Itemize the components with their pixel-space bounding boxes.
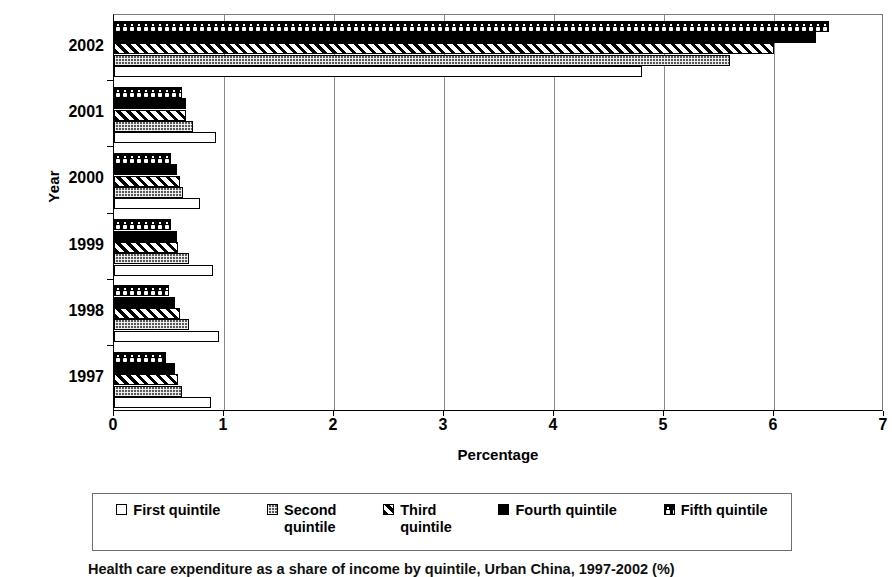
bar-group-2001: [114, 81, 882, 147]
x-tick-label-7: 7: [863, 416, 892, 434]
bar-1997-fifth-quintile: [114, 352, 166, 363]
bar-1999-third-quintile: [114, 242, 178, 253]
second-quintile-swatch: [267, 504, 278, 515]
bar-1998-fourth-quintile: [114, 297, 175, 308]
x-tick-label-0: 0: [93, 416, 133, 434]
bar-1998-second-quintile: [114, 319, 189, 330]
bar-2000-fourth-quintile: [114, 164, 177, 175]
bar-group-2002: [114, 15, 882, 81]
bar-group-1998: [114, 280, 882, 346]
x-tick-label-2: 2: [313, 416, 353, 434]
bar-2000-fifth-quintile: [114, 153, 171, 164]
legend-label-2: Second quintile: [284, 502, 336, 536]
bar-1998-first-quintile: [114, 331, 219, 342]
legend-item-5[interactable]: Fifth quintile: [664, 502, 768, 519]
legend-item-1[interactable]: First quintile: [116, 502, 220, 519]
y-tick-label-2002: 2002: [44, 37, 104, 55]
bar-1998-fifth-quintile: [114, 285, 169, 296]
y-tick-label-1999: 1999: [44, 236, 104, 254]
x-tick-label-4: 4: [533, 416, 573, 434]
bar-2000-second-quintile: [114, 187, 183, 198]
first-quintile-swatch: [116, 504, 127, 515]
x-tick-mark-4: [553, 411, 554, 416]
third-quintile-swatch: [383, 504, 394, 515]
bar-group-1997: [114, 346, 882, 412]
bar-1997-first-quintile: [114, 397, 211, 408]
x-tick-mark-5: [663, 411, 664, 416]
bar-2001-fifth-quintile: [114, 87, 182, 98]
x-tick-label-3: 3: [423, 416, 463, 434]
fifth-quintile-swatch: [664, 504, 675, 515]
chart-legend: First quintileSecond quintileThird quint…: [92, 493, 792, 551]
bar-1999-fifth-quintile: [114, 219, 171, 230]
y-axis-tick-labels: 200220012000199919981997: [0, 0, 104, 410]
y-tick-label-1998: 1998: [44, 302, 104, 320]
bar-1997-second-quintile: [114, 386, 182, 397]
bars-layer: [114, 15, 882, 410]
bar-2002-second-quintile: [114, 55, 730, 66]
x-tick-label-5: 5: [643, 416, 683, 434]
legend-item-3[interactable]: Third quintile: [383, 502, 452, 536]
legend-label-1: First quintile: [133, 502, 220, 519]
bar-1997-third-quintile: [114, 374, 178, 385]
bar-2002-fourth-quintile: [114, 32, 816, 43]
x-tick-label-1: 1: [203, 416, 243, 434]
fourth-quintile-swatch: [498, 504, 509, 515]
bar-group-2000: [114, 147, 882, 213]
x-tick-mark-7: [883, 411, 884, 416]
y-tick-label-2000: 2000: [44, 169, 104, 187]
legend-label-4: Fourth quintile: [515, 502, 616, 519]
bar-2002-fifth-quintile: [114, 21, 829, 32]
y-tick-mark-4: [107, 279, 113, 280]
y-tick-label-2001: 2001: [44, 103, 104, 121]
legend-item-4[interactable]: Fourth quintile: [498, 502, 616, 519]
bar-2002-first-quintile: [114, 66, 642, 77]
x-tick-mark-3: [443, 411, 444, 416]
bar-2000-first-quintile: [114, 198, 200, 209]
bar-1998-third-quintile: [114, 308, 180, 319]
plot-area: [113, 14, 883, 411]
bar-1999-first-quintile: [114, 265, 213, 276]
x-axis-tick-labels: 01234567: [0, 416, 884, 440]
x-tick-mark-1: [223, 411, 224, 416]
bar-1999-second-quintile: [114, 253, 189, 264]
bar-2001-first-quintile: [114, 132, 216, 143]
x-tick-label-6: 6: [753, 416, 793, 434]
legend-items: First quintileSecond quintileThird quint…: [93, 502, 791, 536]
bar-2001-third-quintile: [114, 110, 186, 121]
bar-2002-third-quintile: [114, 43, 774, 54]
legend-item-2[interactable]: Second quintile: [267, 502, 336, 536]
bar-1997-fourth-quintile: [114, 363, 175, 374]
bar-group-1999: [114, 214, 882, 280]
legend-label-5: Fifth quintile: [681, 502, 768, 519]
figure-caption: Health care expenditure as a share of in…: [88, 561, 878, 577]
y-tick-mark-3: [107, 213, 113, 214]
y-tick-mark-2: [107, 146, 113, 147]
x-tick-mark-2: [333, 411, 334, 416]
x-tick-mark-0: [113, 411, 114, 416]
y-tick-mark-5: [107, 345, 113, 346]
bar-2001-second-quintile: [114, 121, 193, 132]
x-tick-mark-6: [773, 411, 774, 416]
bar-1999-fourth-quintile: [114, 231, 177, 242]
x-axis-title: Percentage: [113, 446, 883, 463]
bar-2000-third-quintile: [114, 176, 180, 187]
bar-2001-fourth-quintile: [114, 98, 186, 109]
legend-label-3: Third quintile: [400, 502, 452, 536]
y-tick-label-1997: 1997: [44, 368, 104, 386]
y-tick-mark-1: [107, 80, 113, 81]
